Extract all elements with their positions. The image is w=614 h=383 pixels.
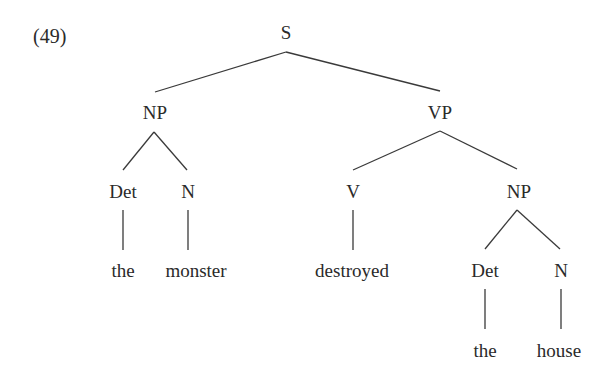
- edge-np2-det: [485, 210, 517, 249]
- node-vp: VP: [428, 102, 452, 124]
- word-the-object: the: [473, 340, 496, 362]
- word-monster: monster: [165, 260, 226, 282]
- node-n-subject: N: [181, 181, 195, 203]
- edge-np-det: [123, 132, 154, 170]
- node-v: V: [346, 181, 360, 203]
- edge-vp-v: [353, 131, 440, 170]
- word-destroyed: destroyed: [315, 260, 389, 282]
- edge-np2-n: [517, 210, 560, 249]
- edge-s-np: [155, 52, 286, 92]
- node-det-subject: Det: [109, 181, 136, 203]
- edge-vp-np: [440, 131, 517, 169]
- edge-s-vp: [286, 52, 440, 91]
- word-house: house: [537, 340, 581, 362]
- node-np-object: NP: [507, 181, 531, 203]
- node-det-object: Det: [471, 260, 498, 282]
- edge-np-n: [154, 132, 187, 170]
- node-s: S: [281, 22, 292, 44]
- word-the-subject: the: [111, 260, 134, 282]
- node-np-subject: NP: [143, 102, 167, 124]
- node-n-object: N: [554, 260, 568, 282]
